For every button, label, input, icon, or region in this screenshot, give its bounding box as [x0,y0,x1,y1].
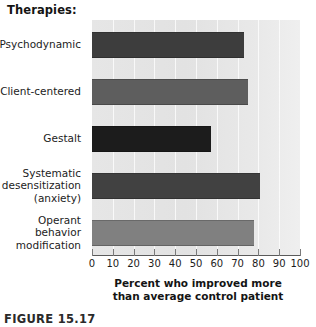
x-axis-tick [196,249,197,256]
x-axis-tick-label: 60 [210,258,223,269]
category-label: Psychodynamic [0,38,81,51]
x-axis-tick [238,249,239,256]
category-label-column: PsychodynamicClient-centeredGestaltSyste… [0,20,86,255]
x-axis-tick-label: 0 [89,258,95,269]
bar [92,32,244,58]
x-axis-tick-label: 10 [106,258,119,269]
x-axis-tick-label: 80 [252,258,265,269]
x-axis-tick [113,249,114,256]
category-label: Gestalt [43,132,81,145]
x-axis-tick [217,249,218,256]
figure-caption: FIGURE 15.17 [4,312,96,326]
gridline [279,20,280,255]
bar [92,173,260,199]
plot-area [92,20,300,255]
bar [92,220,254,246]
x-axis-tick [154,249,155,256]
x-axis-title: Percent who improved more than average c… [92,277,304,302]
x-axis-tick-label: 30 [148,258,161,269]
category-label: Systematic desensitization (anxiety) [2,167,81,205]
category-label: Operant behavior modification [16,214,81,252]
x-axis-tick-label: 50 [190,258,203,269]
gridline [300,20,301,255]
x-axis-tick-label: 100 [290,258,309,269]
x-axis-tick [134,249,135,256]
x-axis-tick-label: 90 [273,258,286,269]
x-axis-tick [279,249,280,256]
bar [92,126,211,152]
gridline [258,20,259,255]
x-axis-tick [258,249,259,256]
x-axis-tick-label: 40 [169,258,182,269]
x-axis-tick-label: 20 [127,258,140,269]
x-axis-tick [175,249,176,256]
x-axis-title-line2: than average control patient [92,290,304,303]
category-label: Client-centered [0,85,81,98]
bar [92,79,248,105]
x-axis-tick [300,249,301,256]
x-axis-title-line1: Percent who improved more [92,277,304,290]
x-axis-tick-label: 70 [231,258,244,269]
x-axis-tick [92,249,93,256]
legend-title: Therapies: [7,3,77,17]
figure-bar-chart: Therapies: PsychodynamicClient-centeredG… [0,0,316,327]
